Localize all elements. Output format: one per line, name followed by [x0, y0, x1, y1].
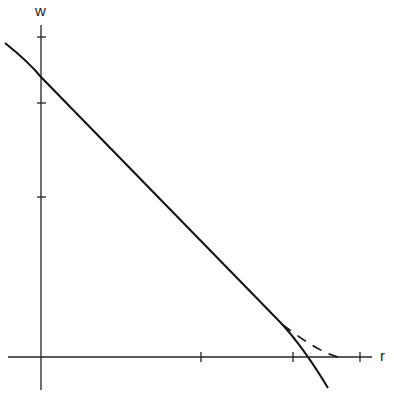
solid-curve	[5, 43, 328, 388]
diagram-canvas	[0, 0, 394, 393]
x-axis-label: r	[380, 347, 385, 364]
y-axis-label: w	[35, 2, 46, 19]
